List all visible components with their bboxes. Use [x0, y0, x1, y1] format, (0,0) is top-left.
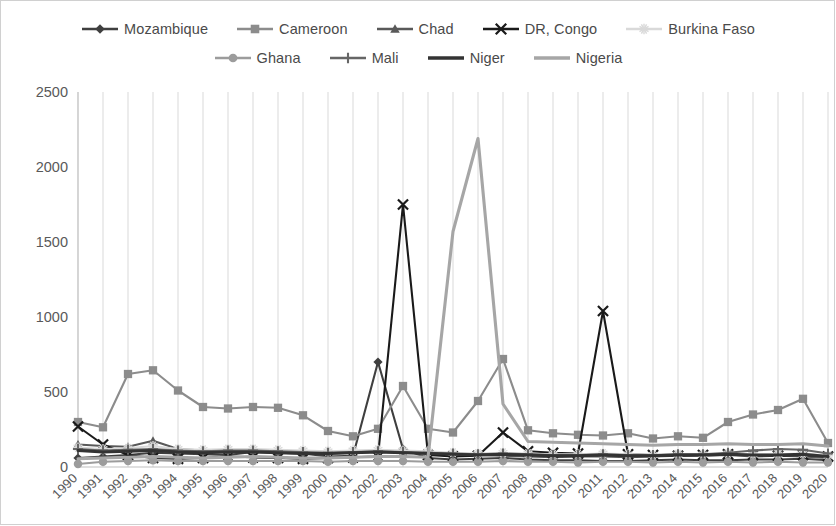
svg-text:1994: 1994 [149, 471, 180, 502]
svg-text:1998: 1998 [249, 471, 280, 502]
svg-text:2002: 2002 [349, 471, 380, 502]
svg-text:2009: 2009 [524, 471, 555, 502]
svg-text:2000: 2000 [36, 159, 68, 175]
svg-text:2007: 2007 [474, 471, 505, 502]
svg-text:1996: 1996 [199, 471, 230, 502]
svg-text:2000: 2000 [299, 471, 330, 502]
svg-text:2003: 2003 [374, 471, 405, 502]
svg-text:2018: 2018 [749, 471, 780, 502]
chart-container: MozambiqueCameroonChadDR, CongoBurkina F… [0, 0, 836, 526]
svg-text:2016: 2016 [699, 471, 730, 502]
svg-text:2004: 2004 [399, 471, 430, 502]
svg-text:1500: 1500 [36, 234, 68, 250]
svg-text:2500: 2500 [36, 84, 68, 100]
svg-text:2019: 2019 [774, 471, 805, 502]
svg-text:2012: 2012 [599, 471, 630, 502]
svg-text:2017: 2017 [724, 471, 755, 502]
svg-text:1990: 1990 [49, 471, 80, 502]
svg-text:2014: 2014 [649, 471, 680, 502]
svg-text:1000: 1000 [36, 309, 68, 325]
svg-text:2011: 2011 [575, 471, 605, 501]
y-axis-ticks: 05001000150020002500 [36, 84, 68, 475]
svg-text:2020: 2020 [799, 471, 830, 502]
x-axis-ticks: 1990199119921993199419951996199719981999… [49, 471, 830, 502]
svg-text:1992: 1992 [99, 471, 130, 502]
svg-text:1991: 1991 [74, 471, 105, 502]
svg-text:1993: 1993 [124, 471, 155, 502]
svg-text:2006: 2006 [449, 471, 480, 502]
svg-text:1995: 1995 [174, 471, 205, 502]
svg-text:2010: 2010 [549, 471, 580, 502]
svg-text:2013: 2013 [624, 471, 655, 502]
svg-text:2015: 2015 [674, 471, 705, 502]
gridlines [78, 92, 828, 467]
svg-text:2005: 2005 [424, 471, 455, 502]
svg-text:1999: 1999 [274, 471, 305, 502]
svg-text:1997: 1997 [224, 471, 255, 502]
svg-text:2008: 2008 [499, 471, 530, 502]
plot-area: 0500100015002000250019901991199219931994… [0, 0, 836, 526]
svg-text:2001: 2001 [324, 471, 355, 502]
svg-text:500: 500 [44, 384, 68, 400]
